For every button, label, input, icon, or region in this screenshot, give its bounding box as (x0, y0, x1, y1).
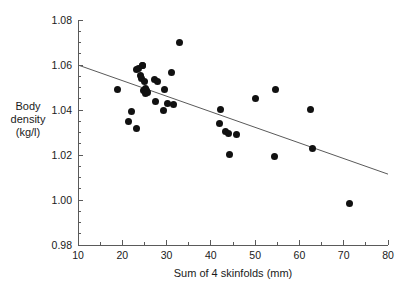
data-point (139, 62, 146, 69)
data-point (152, 98, 159, 105)
plot-area (78, 20, 388, 245)
data-point (216, 120, 223, 127)
x-tick-label: 80 (373, 250, 403, 261)
x-tick-label: 40 (196, 250, 226, 261)
x-axis-title: Sum of 4 skinfolds (mm) (78, 267, 388, 280)
data-point (226, 151, 233, 158)
data-point (225, 130, 232, 137)
data-point (217, 106, 224, 113)
data-point (125, 118, 132, 125)
y-tick-label: 1.02 (38, 150, 72, 161)
x-tick-label: 10 (63, 250, 93, 261)
x-tick-label: 70 (329, 250, 359, 261)
data-point (170, 101, 177, 108)
x-tick-label: 60 (284, 250, 314, 261)
data-point (233, 131, 240, 138)
data-point (252, 95, 259, 102)
data-point (144, 89, 151, 96)
x-axis-tick-labels: 1020304050607080 (0, 250, 404, 266)
data-point (271, 153, 278, 160)
y-axis-title: Bodydensity(kg/l) (2, 100, 54, 139)
data-point (346, 200, 353, 207)
y-tick-label: 1.06 (38, 60, 72, 71)
y-tick-label: 0.98 (38, 240, 72, 251)
data-point (307, 106, 314, 113)
data-point (176, 39, 183, 46)
data-point (168, 69, 175, 76)
data-point (160, 107, 167, 114)
y-axis-title-line: Body (2, 100, 54, 113)
y-axis-title-line: density (2, 113, 54, 126)
data-point (128, 108, 135, 115)
x-tick-label: 20 (107, 250, 137, 261)
scatter-chart-figure: 0.981.001.021.041.061.08 102030405060708… (0, 0, 404, 294)
y-tick-label: 1.08 (38, 15, 72, 26)
data-point (154, 78, 161, 85)
data-point (309, 145, 316, 152)
data-point (272, 86, 279, 93)
y-axis-title-line: (kg/l) (2, 126, 54, 139)
x-tick-label: 50 (240, 250, 270, 261)
y-tick-label: 1.00 (38, 195, 72, 206)
data-point (133, 125, 140, 132)
x-tick-label: 30 (152, 250, 182, 261)
data-point (161, 86, 168, 93)
data-point (114, 86, 121, 93)
